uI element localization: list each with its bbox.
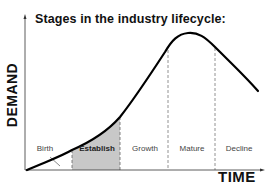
stage-label-decline: Decline [226, 144, 253, 153]
x-axis-arrow-icon [260, 169, 265, 172]
y-axis-arrow-icon [24, 14, 27, 19]
stage-label-mature: Mature [180, 144, 205, 153]
stage-label-birth: Birth [37, 144, 53, 153]
x-axis-label: TIME [218, 168, 256, 184]
stage-label-establish: Establish [79, 144, 115, 153]
stage-label-growth: Growth [132, 144, 158, 153]
lifecycle-chart [0, 0, 268, 184]
